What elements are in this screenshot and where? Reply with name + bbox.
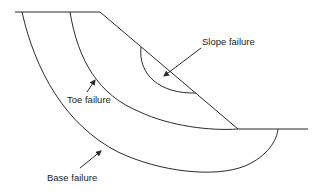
slope-failure-label: Slope failure [202, 36, 255, 47]
toe-failure-arc [70, 12, 238, 129]
slope-failure-diagram: Slope failure Toe failure Base failure [0, 0, 320, 193]
slope-face-line [100, 12, 238, 129]
toe-failure-arrow [87, 80, 95, 92]
slope-failure-arrow [164, 48, 201, 76]
toe-failure-label: Toe failure [67, 94, 111, 105]
base-failure-arrow [80, 151, 101, 168]
base-failure-label: Base failure [47, 172, 97, 183]
